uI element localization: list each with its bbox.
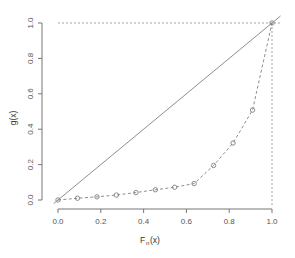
y-tick-label: 1.0 bbox=[26, 17, 35, 29]
lorenz-curve-plot: 0.00.20.40.60.81.0 g(x) 0.00.20.40.60.81… bbox=[0, 0, 295, 258]
x-tick-label: 1.0 bbox=[266, 217, 278, 226]
x-tick-label: 0.0 bbox=[52, 217, 64, 226]
x-axis-title-tail: (x) bbox=[150, 235, 160, 245]
chart-canvas: 0.00.20.40.60.81.0 g(x) 0.00.20.40.60.81… bbox=[0, 0, 295, 258]
y-tick-label: 0.8 bbox=[26, 52, 35, 64]
y-axis-title: g(x) bbox=[8, 111, 18, 126]
x-axis-title-base: F bbox=[140, 235, 145, 245]
y-tick-label: 0.6 bbox=[26, 88, 35, 100]
x-axis-title-subscript: n bbox=[146, 240, 149, 246]
y-tick-label: 0.2 bbox=[26, 158, 35, 170]
y-tick-label: 0.0 bbox=[26, 194, 35, 206]
x-tick-label: 0.6 bbox=[181, 217, 193, 226]
x-tick-label: 0.8 bbox=[224, 217, 236, 226]
y-tick-label: 0.4 bbox=[26, 123, 35, 135]
x-tick-label: 0.2 bbox=[95, 217, 107, 226]
x-axis-title: F n (x) bbox=[140, 235, 160, 246]
x-tick-label: 0.4 bbox=[138, 217, 150, 226]
